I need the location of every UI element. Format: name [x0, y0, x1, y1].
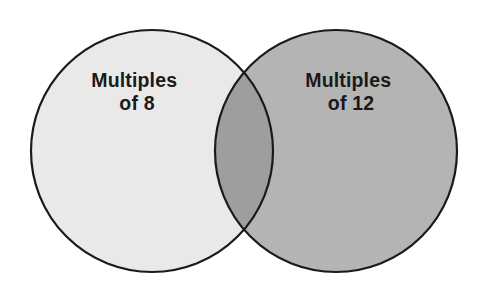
left-set-label-line-1: Multiples [91, 69, 177, 91]
right-set-label-line-1: Multiples [305, 69, 391, 91]
venn-diagram-canvas: Multiples of 8 Multiples of 12 [0, 0, 485, 286]
right-set-label-line-2: of 12 [328, 92, 374, 114]
venn-diagram: Multiples of 8 Multiples of 12 [0, 0, 485, 286]
left-set-label-line-2: of 8 [119, 92, 154, 114]
